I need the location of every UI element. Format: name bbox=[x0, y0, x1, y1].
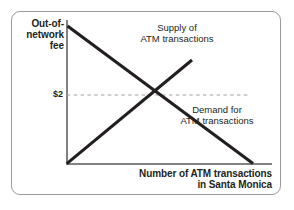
demand-curve-label: Demand for ATM transactions bbox=[163, 105, 271, 126]
supply-curve-label: Supply of ATM transactions bbox=[121, 23, 233, 44]
supply-demand-figure: Out-of- network fee $2 Supply of ATM tra… bbox=[0, 0, 294, 210]
x-axis-title: Number of ATM transactions in Santa Moni… bbox=[108, 168, 272, 190]
equilibrium-price-tick-label: $2 bbox=[40, 89, 63, 99]
y-axis-title: Out-of- network fee bbox=[18, 18, 64, 52]
